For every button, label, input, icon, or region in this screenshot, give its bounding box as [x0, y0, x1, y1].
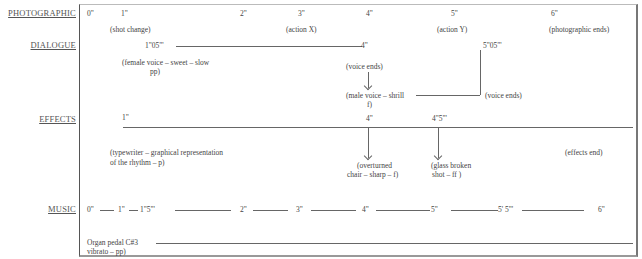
music-dash	[376, 210, 430, 211]
note-action-x: (action X)	[286, 25, 317, 34]
music-dash	[253, 210, 288, 211]
effects-time-4: 4"	[366, 114, 373, 123]
overturned-chair-line1: (overturned	[357, 161, 392, 170]
effects-time-45: 4"5"'	[432, 114, 447, 123]
glass-broken-line1: (glass broken	[431, 161, 471, 170]
typewriter-line1: (typewriter – graphical representation	[110, 148, 223, 157]
female-voice-line2: pp)	[150, 67, 160, 76]
male-voice-line1: (male voice – shrill	[346, 91, 404, 100]
track-label-effects: EFFECTS	[0, 114, 76, 124]
dialogue-female-line	[176, 46, 362, 47]
effects-start-time: 1"	[122, 113, 129, 122]
track-label-dialogue: DIALOGUE	[0, 40, 76, 50]
track-label-music: MUSIC	[0, 204, 76, 214]
organ-pedal-line	[156, 243, 633, 244]
track-label-photographic: PHOTOGRAPHIC	[0, 8, 76, 18]
effects-end: (effects end)	[565, 148, 603, 157]
male-voice-line2: f)	[367, 100, 372, 109]
music-dash	[451, 210, 498, 211]
music-dash	[129, 210, 138, 211]
dialogue-end-time: 4"	[361, 41, 368, 50]
music-time-6: 6"	[598, 205, 605, 214]
voice-ends-1: (voice ends)	[346, 62, 383, 71]
photo-time-6: 6"	[551, 9, 558, 18]
photo-time-0: 0"	[87, 9, 94, 18]
photo-time-3: 3"	[298, 9, 305, 18]
dialogue-second-time: 5"05"'	[483, 41, 502, 50]
organ-line2: vibrato – pp)	[87, 247, 126, 256]
overturned-chair-line2: chair – sharp – f)	[347, 170, 398, 179]
voice-ends-2: (voice ends)	[485, 91, 522, 100]
music-time-0: 0"	[87, 205, 94, 214]
arrow-down-icon	[368, 128, 369, 158]
music-dash	[522, 210, 584, 211]
photo-time-2: 2"	[240, 9, 247, 18]
effects-line	[123, 127, 633, 128]
music-time-1: 1"	[118, 205, 125, 214]
note-action-y: (action Y)	[437, 25, 467, 34]
dialogue-male-line	[416, 95, 480, 96]
music-time-55: 5' 5"'	[498, 205, 513, 214]
note-photographic-ends: (photographic ends)	[549, 25, 609, 34]
dialogue-start-time: 1"05"'	[145, 41, 164, 50]
arrow-down-icon	[438, 128, 439, 158]
photo-time-1: 1"	[121, 9, 128, 18]
arrow-down-icon	[368, 72, 369, 88]
dialogue-male-vertical	[480, 50, 481, 95]
music-dash	[175, 210, 231, 211]
music-time-3: 3"	[296, 205, 303, 214]
music-time-15: 1"5"'	[140, 205, 155, 214]
glass-broken-line2: shot – ff )	[432, 170, 461, 179]
photo-time-5: 5"	[451, 9, 458, 18]
music-time-2: 2"	[240, 205, 247, 214]
music-dash	[100, 210, 114, 211]
music-time-5: 5"	[431, 205, 438, 214]
typewriter-line2: of the rhythm – p)	[110, 158, 165, 167]
music-time-4: 4"	[362, 205, 369, 214]
note-shot-change: (shot change)	[110, 25, 151, 34]
organ-line1: Organ pedal C#3	[87, 238, 138, 247]
female-voice-line1: (female voice – sweet – slow	[122, 58, 209, 67]
music-dash	[311, 210, 356, 211]
photo-time-4: 4"	[366, 9, 373, 18]
